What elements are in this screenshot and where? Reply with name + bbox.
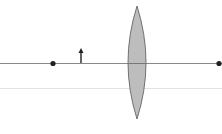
right-focal-point-dot-icon — [216, 61, 221, 66]
object-arrow-icon — [79, 48, 84, 63]
lens-diagram — [0, 0, 222, 134]
object-arrow-head — [79, 48, 84, 53]
converging-lens — [128, 6, 146, 119]
left-focal-point-dot-icon — [50, 61, 55, 66]
